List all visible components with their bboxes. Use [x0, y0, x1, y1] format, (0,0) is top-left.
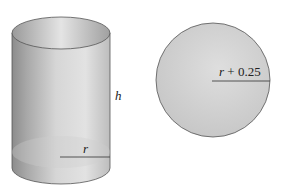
- cylinder-bottom-shade: [12, 136, 110, 168]
- circle-shape: [156, 23, 270, 137]
- circle-figure: r + 0.25: [156, 23, 270, 137]
- cylinder-top-opening: [12, 17, 110, 49]
- cylinder-figure: r h: [12, 17, 122, 184]
- cylinder-height-label: h: [115, 88, 122, 103]
- diagram-canvas: r h r + 0.25: [0, 0, 282, 185]
- circle-radius-label: r + 0.25: [219, 64, 261, 79]
